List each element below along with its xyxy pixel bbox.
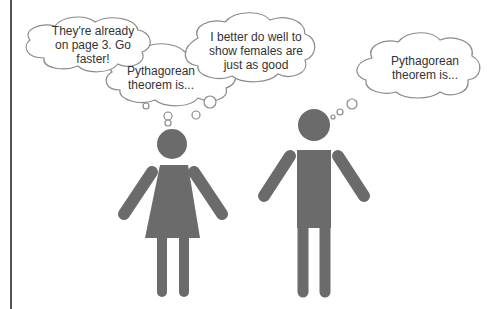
bubble-text-male-theorem: Pythagorean theorem is...	[385, 54, 465, 82]
male-head	[298, 109, 330, 141]
male-torso	[297, 150, 331, 228]
bubble-text-female-theorem: Pythagorean theorem is...	[126, 64, 196, 92]
bubble-text-female-pressure: I better do well to show females are jus…	[208, 30, 304, 72]
female-head	[157, 129, 187, 159]
bubble-text-female-rushed: They're already on page 3. Go faster!	[48, 24, 138, 66]
male-figure	[264, 109, 364, 292]
female-figure	[124, 129, 222, 292]
